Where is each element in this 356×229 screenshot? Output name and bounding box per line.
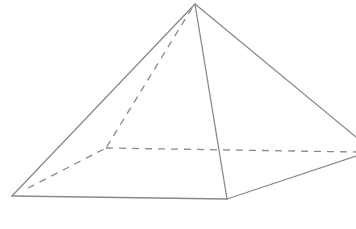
- pyramid-diagram-canvas: [0, 0, 356, 229]
- hidden-edge-base-back: [106, 148, 356, 152]
- hidden-edge-base-left: [28, 148, 106, 188]
- hidden-edge-apex-back-left: [106, 8, 192, 148]
- edge-apex-front-right: [195, 4, 227, 199]
- edge-base-right: [227, 156, 356, 199]
- edge-base-front: [12, 196, 227, 199]
- edge-apex-right: [195, 4, 356, 137]
- edge-apex-front-left: [12, 4, 195, 196]
- pyramid-figure: [0, 0, 356, 229]
